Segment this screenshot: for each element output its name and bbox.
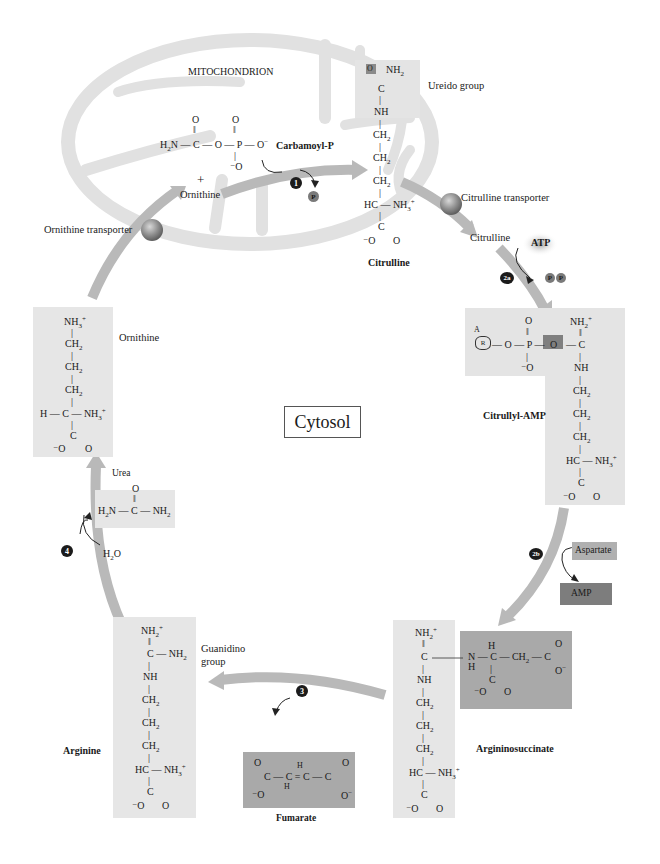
citrulline-cyto-label: Citrulline [470, 232, 510, 243]
aspartate-label: Aspartate [575, 545, 611, 555]
pi-text: P [311, 193, 315, 201]
ppi-p2: P [556, 273, 566, 283]
pi-icon: P [308, 191, 319, 202]
ornithine-transporter-label: Ornithine transporter [44, 224, 132, 235]
urea-label: Urea [112, 468, 130, 478]
ornithine-label: Ornithine [119, 332, 159, 343]
fumarate-structure: O O C — C = C — C H H ⁻O O− [246, 758, 356, 804]
ornithine-transporter-icon [141, 219, 163, 241]
step-1-marker-text: 1 [294, 179, 298, 188]
cytosol-label: Cytosol [284, 406, 361, 438]
ornithine-structure: NH3+ | CH2 | CH2 | CH2 | H — C — NH3+ | … [38, 316, 113, 461]
argininosuccinate-label: Argininosuccinate [476, 743, 554, 754]
cytosol-text: Cytosol [294, 412, 350, 433]
ppi-icon: P P [545, 273, 566, 283]
urea-structure: O ‖ H2N — C — NH2 [98, 484, 178, 524]
citrulline-label: Citrulline [368, 257, 410, 268]
step-2a-marker-text: 2a [504, 274, 511, 282]
guanidino-group-label: Guanidino group [201, 643, 251, 668]
argininosuccinate-structure: NH2+ ‖ C N — C — CH2 — C H H O O− | C ⁻O… [400, 627, 580, 822]
citrulline-structure: O NH2 C | NH | CH2 | CH2 | CH2 | HC — NH… [366, 64, 426, 264]
arginine-structure: NH2+ ‖ C — NH2 | NH | CH2 | CH2 | CH2 | … [132, 625, 202, 820]
plus-sign: + [197, 172, 204, 188]
atp-label: ATP [531, 237, 550, 248]
arginine-label: Arginine [63, 745, 101, 756]
citrulline-transporter-label: Citrulline transporter [461, 192, 549, 203]
amp-label: AMP [571, 588, 592, 598]
mitochondrion-label: MITOCHONDRION [188, 66, 273, 77]
step-3-marker: 3 [296, 685, 308, 697]
ppi-p1: P [545, 273, 555, 283]
step-2b-marker: 2b [529, 548, 543, 560]
step-4-marker-text: 4 [65, 547, 69, 556]
water-label: H2O [103, 548, 121, 562]
ureido-group-label: Ureido group [428, 80, 484, 93]
step-3-marker-text: 3 [300, 687, 304, 696]
ornithine-mito-label: Ornithine [180, 189, 220, 200]
fumarate-label: Fumarate [276, 813, 316, 823]
step-4-marker: 4 [61, 545, 73, 557]
citrullyl-amp-label: Citrullyl-AMP [483, 410, 546, 421]
step-1-marker: 1 [290, 177, 302, 189]
citrulline-transporter-icon [440, 193, 462, 215]
step-2a-marker: 2a [500, 272, 514, 284]
step-2b-marker-text: 2b [532, 550, 539, 558]
carbamoyl-p-label: Carbamoyl-P [276, 140, 334, 151]
